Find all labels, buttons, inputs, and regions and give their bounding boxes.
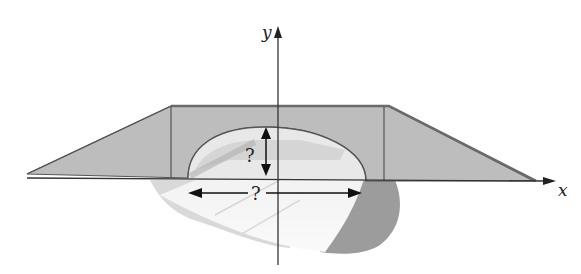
y-axis-label: y	[261, 22, 272, 42]
x-axis-arrowhead	[543, 177, 556, 185]
y-axis-arrowhead	[274, 26, 282, 38]
height-label: ?	[245, 145, 255, 166]
x-axis-label: x	[558, 180, 568, 200]
bridge-diagram: x y ? ?	[0, 0, 581, 274]
width-label: ?	[251, 183, 261, 204]
